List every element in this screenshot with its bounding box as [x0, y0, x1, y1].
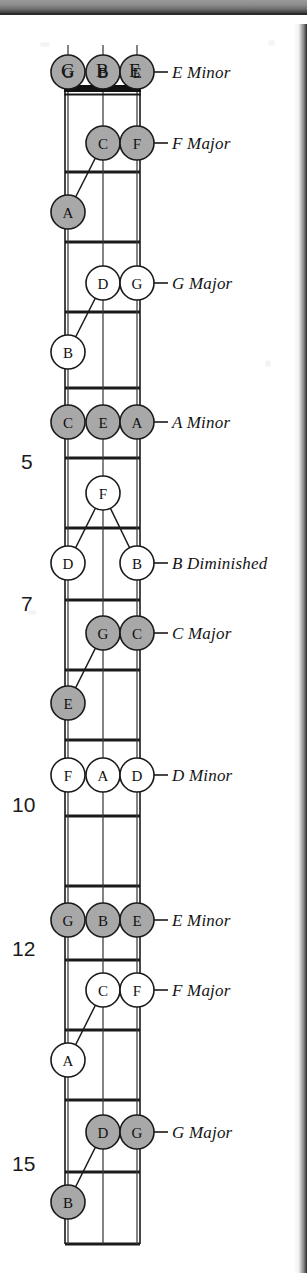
note-marker-a[interactable]: A — [51, 1043, 85, 1077]
chord-label-g-major-9: G Major — [172, 1123, 232, 1143]
fret-number-15: 15 — [12, 1152, 35, 1176]
note-letter: E — [98, 415, 107, 431]
note-letter: F — [133, 136, 141, 152]
note-letter: C — [63, 415, 73, 431]
note-letter: B — [98, 913, 108, 929]
note-marker-d[interactable]: D — [120, 758, 154, 792]
note-letter: A — [63, 205, 74, 221]
note-marker-e[interactable]: E — [51, 686, 85, 720]
fret-number-10: 10 — [12, 793, 35, 817]
note-marker-a[interactable]: A — [120, 405, 154, 439]
note-letter: B — [63, 1195, 73, 1211]
chord-label-e-minor-7: E Minor — [172, 911, 231, 931]
chord-label-f-major-1: F Major — [172, 134, 231, 154]
note-letter: G — [132, 276, 143, 292]
note-marker-g[interactable]: G — [51, 903, 85, 937]
note-letter: D — [63, 556, 74, 572]
note-letter: D — [98, 276, 109, 292]
note-marker-c[interactable]: C — [51, 405, 85, 439]
note-marker-e[interactable]: E — [86, 405, 120, 439]
note-letter: A — [132, 415, 143, 431]
note-marker-f[interactable]: F — [120, 126, 154, 160]
note-marker-d[interactable]: D — [51, 546, 85, 580]
chord-label-b-diminished-4: B Diminished — [172, 554, 267, 574]
note-letter: B — [132, 556, 142, 572]
note-letter: D — [132, 768, 143, 784]
chord-label-c-major-5: C Major — [172, 624, 232, 644]
note-marker-a[interactable]: A — [86, 758, 120, 792]
note-marker-g[interactable]: G — [120, 1115, 154, 1149]
note-marker-f[interactable]: F — [86, 476, 120, 510]
note-marker-c[interactable]: C — [86, 126, 120, 160]
note-marker-b[interactable]: B — [120, 546, 154, 580]
fretboard-canvas: GBECFADGBCEAFDBGCEFADGBECFADGB — [0, 0, 307, 1273]
note-letter: G — [63, 913, 74, 929]
note-letter: F — [64, 768, 72, 784]
note-marker-c[interactable]: C — [120, 616, 154, 650]
note-letter: A — [98, 768, 109, 784]
note-letter: A — [63, 1053, 74, 1069]
note-marker-f[interactable]: F — [120, 973, 154, 1007]
chord-label-e-minor-0: E Minor — [172, 63, 231, 83]
fret-number-12: 12 — [12, 937, 35, 961]
note-marker-d[interactable]: D — [86, 266, 120, 300]
note-marker-b[interactable]: B — [51, 1185, 85, 1219]
note-marker-g[interactable]: G — [120, 266, 154, 300]
note-letter: C — [98, 983, 108, 999]
note-marker-e[interactable]: E — [120, 903, 154, 937]
label-leaders-group — [140, 72, 168, 1132]
note-marker-g[interactable]: G — [86, 616, 120, 650]
open-string-label-e: E — [129, 60, 141, 82]
open-string-label-g: G — [61, 60, 75, 82]
note-marker-c[interactable]: C — [86, 973, 120, 1007]
chord-label-d-minor-6: D Minor — [172, 766, 232, 786]
note-marker-a[interactable]: A — [51, 195, 85, 229]
fret-number-7: 7 — [21, 592, 33, 616]
note-marker-d[interactable]: D — [86, 1115, 120, 1149]
fretboard-figure: GBECFADGBCEAFDBGCEFADGBECFADGB GBE 57101… — [0, 0, 307, 1273]
note-marker-b[interactable]: B — [51, 335, 85, 369]
note-marker-f[interactable]: F — [51, 758, 85, 792]
note-letter: G — [132, 1125, 143, 1141]
note-letter: F — [133, 983, 141, 999]
note-letter: F — [99, 486, 107, 502]
chord-label-g-major-2: G Major — [172, 274, 232, 294]
note-letter: E — [63, 696, 72, 712]
note-letter: C — [98, 136, 108, 152]
note-letter: C — [132, 626, 142, 642]
chord-label-f-major-8: F Major — [172, 981, 231, 1001]
chord-label-a-minor-3: A Minor — [172, 413, 230, 433]
note-marker-b[interactable]: B — [86, 903, 120, 937]
note-letter: D — [98, 1125, 109, 1141]
note-letter: G — [98, 626, 109, 642]
note-letter: E — [132, 913, 141, 929]
open-string-label-b: B — [96, 60, 109, 82]
fret-number-5: 5 — [21, 450, 33, 474]
note-letter: B — [63, 345, 73, 361]
